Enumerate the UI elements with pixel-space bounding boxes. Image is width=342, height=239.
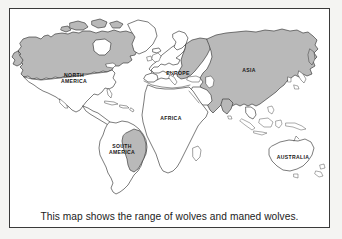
region-korea	[288, 77, 291, 82]
figure-world-map: NORTH AMERICA SOUTH AMERICA EUROPE AFRIC…	[0, 0, 342, 239]
world-map-graphic	[10, 9, 329, 205]
region-new-zealand-north	[320, 164, 325, 169]
map-frame: NORTH AMERICA SOUTH AMERICA EUROPE AFRIC…	[9, 8, 330, 228]
map-caption: This map shows the range of wolves and m…	[41, 211, 299, 222]
map-area: NORTH AMERICA SOUTH AMERICA EUROPE AFRIC…	[10, 9, 329, 205]
caption-bar: This map shows the range of wolves and m…	[10, 205, 329, 227]
region-ireland	[147, 56, 152, 61]
